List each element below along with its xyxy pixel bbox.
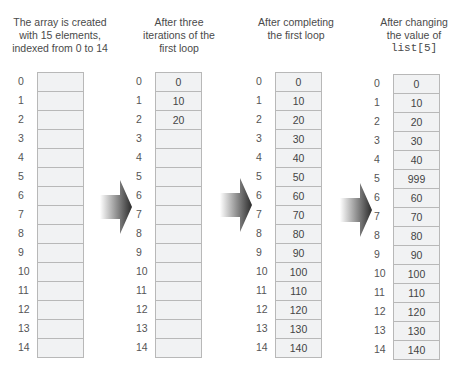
- array-cell: [155, 300, 202, 319]
- array-cell: [37, 129, 84, 148]
- array-index-label: 11: [256, 281, 274, 300]
- caption-line: indexed from 0 to 14: [4, 42, 116, 55]
- array-index-label: 12: [18, 300, 36, 319]
- caption-step-2: After three iterations of the first loop: [123, 16, 235, 55]
- array-cell: 10: [275, 91, 322, 110]
- caption-line: After completing: [240, 16, 352, 29]
- array-index-label: 6: [256, 186, 274, 205]
- array-cell: [155, 262, 202, 281]
- caption-line: The array is created: [4, 16, 116, 29]
- array-index-label: 8: [18, 224, 36, 243]
- array-cell: [155, 319, 202, 338]
- array-cell: 0: [155, 72, 202, 91]
- array-cell: 60: [393, 188, 440, 207]
- array-cell: 130: [275, 319, 322, 338]
- array-cell: 90: [393, 245, 440, 264]
- array-index-label: 5: [18, 167, 36, 186]
- caption-step-3: After completing the first loop: [240, 16, 352, 42]
- array-cell: [155, 148, 202, 167]
- array-cell: 70: [275, 205, 322, 224]
- array-index-label: 7: [136, 205, 154, 224]
- array-cell: 0: [393, 74, 440, 93]
- array-cell: [155, 167, 202, 186]
- array-index-label: 12: [136, 300, 154, 319]
- array-index-label: 7: [256, 205, 274, 224]
- array-cell: 80: [275, 224, 322, 243]
- array-cell: 999: [393, 169, 440, 188]
- array-index-label: 9: [374, 245, 392, 264]
- array-cell: 20: [393, 112, 440, 131]
- array-index-label: 1: [136, 91, 154, 110]
- array-cell: 110: [275, 281, 322, 300]
- array-index-label: 9: [18, 243, 36, 262]
- array-index-label: 7: [18, 205, 36, 224]
- array-index-label: 10: [374, 264, 392, 283]
- array-index-label: 1: [256, 91, 274, 110]
- array-index-label: 4: [136, 148, 154, 167]
- array-cell: 60: [275, 186, 322, 205]
- array-index-label: 3: [374, 131, 392, 150]
- array-index-label: 10: [136, 262, 154, 281]
- array-index-label: 3: [18, 129, 36, 148]
- array-cell: 70: [393, 207, 440, 226]
- caption-line: the value of: [358, 29, 465, 42]
- array-index-label: 14: [18, 338, 36, 357]
- array-index-label: 2: [374, 112, 392, 131]
- array-index-label: 13: [256, 319, 274, 338]
- caption-line: first loop: [123, 42, 235, 55]
- array-index-label: 8: [136, 224, 154, 243]
- array-index-label: 13: [374, 321, 392, 340]
- array-cell: [37, 319, 84, 338]
- array-index-label: 13: [18, 319, 36, 338]
- caption-line: the first loop: [240, 29, 352, 42]
- array-cell: [37, 262, 84, 281]
- arrow-right-icon: [340, 183, 372, 237]
- array-index-label: 12: [256, 300, 274, 319]
- array-cell: 130: [393, 321, 440, 340]
- array-cell: [155, 281, 202, 300]
- array-cell: 0: [275, 72, 322, 91]
- array-cell: 10: [393, 93, 440, 112]
- array-index-label: 14: [256, 338, 274, 357]
- array-index-label: 12: [374, 302, 392, 321]
- array-index-label: 0: [18, 72, 36, 91]
- array-index-label: 9: [136, 243, 154, 262]
- arrow-right-icon: [100, 180, 132, 234]
- array-cell: 80: [393, 226, 440, 245]
- caption-step-4: After changing the value of list[5]: [358, 16, 465, 55]
- array-index-label: 14: [136, 338, 154, 357]
- array-cell: [37, 224, 84, 243]
- array-index-label: 6: [18, 186, 36, 205]
- caption-code: list[5]: [358, 42, 465, 55]
- caption-line: After changing: [358, 16, 465, 29]
- array-cell: [37, 300, 84, 319]
- array-index-label: 9: [256, 243, 274, 262]
- array-index-label: 13: [136, 319, 154, 338]
- array-cell: 100: [275, 262, 322, 281]
- array-index-label: 5: [136, 167, 154, 186]
- array-cell: 40: [275, 148, 322, 167]
- array-cell: [155, 186, 202, 205]
- array-cell: [155, 224, 202, 243]
- array-index-label: 0: [374, 74, 392, 93]
- array-cell: 120: [275, 300, 322, 319]
- array-cell: [37, 338, 84, 358]
- array-cell: [155, 129, 202, 148]
- array-index-label: 4: [374, 150, 392, 169]
- array-index-label: 11: [18, 281, 36, 300]
- array-index-label: 3: [136, 129, 154, 148]
- array-cell: [37, 205, 84, 224]
- array-cell: 20: [275, 110, 322, 129]
- array-index-label: 8: [374, 226, 392, 245]
- caption-line: After three: [123, 16, 235, 29]
- array-index-label: 0: [256, 72, 274, 91]
- caption-step-1: The array is created with 15 elements, i…: [4, 16, 116, 55]
- array-index-label: 10: [256, 262, 274, 281]
- arrow-right-icon: [220, 178, 252, 232]
- array-index-label: 6: [374, 188, 392, 207]
- caption-line: with 15 elements,: [4, 29, 116, 42]
- array-cell: 30: [393, 131, 440, 150]
- array-cell: [155, 243, 202, 262]
- array-cell: 110: [393, 283, 440, 302]
- array-cell: 140: [275, 338, 322, 358]
